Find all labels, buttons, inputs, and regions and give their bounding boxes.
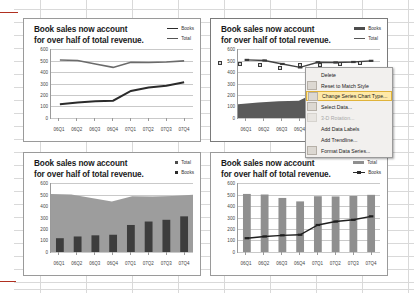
chart-title: Book sales now account for over half of … [221, 25, 337, 46]
menu-item-reset-to-match-style[interactable]: Reset to Match Style [306, 80, 392, 91]
legend-label: Books [368, 170, 381, 175]
chart-title-line1: Book sales now account [221, 159, 337, 170]
y-tick-label: 100 [40, 105, 48, 110]
legend-marker-square-icon [175, 161, 179, 165]
legend-label: Total [367, 160, 377, 165]
y-tick-label: 300 [40, 216, 48, 221]
y-tick-label: 400 [40, 204, 48, 209]
plot-area[interactable]: 600 500 400 300 200 100 0 [237, 183, 380, 253]
x-label: 06Q3 [89, 261, 100, 266]
x-label: 06Q2 [71, 127, 82, 132]
legend-label: Books [368, 26, 381, 31]
chart-title-line1: Book sales now account [34, 159, 150, 170]
selection-handle[interactable] [258, 63, 262, 67]
x-label: 06Q4 [107, 127, 118, 132]
legend-marker-line-icon [167, 38, 178, 39]
chart-title: Book sales now account for over half of … [34, 25, 150, 46]
chart-title: Book sales now account for over half of … [221, 159, 337, 180]
chart-legend[interactable]: Total Books [353, 160, 381, 175]
menu-item-delete[interactable]: Delete [306, 69, 392, 80]
series-area-total [51, 194, 193, 252]
menu-item-label: Format Data Series... [321, 148, 370, 154]
x-label: 06Q3 [276, 261, 287, 266]
x-label: 06Q3 [276, 127, 287, 132]
y-tick-label: 100 [40, 239, 48, 244]
legend-label: Books [181, 26, 194, 31]
legend-entry-books[interactable]: Books [175, 170, 194, 175]
selection-handle[interactable] [238, 62, 242, 66]
legend-marker-line-icon [167, 28, 178, 29]
chart-legend[interactable]: Books Total [167, 26, 194, 41]
menu-item-change-series-chart-type[interactable]: Change Series Chart Type... [306, 91, 392, 101]
x-label: 06Q1 [53, 127, 64, 132]
y-tick-label: 0 [232, 250, 235, 255]
menu-item-label: Select Data... [321, 104, 352, 110]
legend-marker-bar-icon [354, 27, 365, 30]
x-label: 07Q1 [312, 261, 323, 266]
menu-item-label: Change Series Chart Type... [322, 93, 387, 99]
legend-entry-total[interactable]: Total [167, 36, 194, 41]
marker-layer [238, 183, 380, 252]
menu-item-3d-rotation: 3-D Rotation... [306, 112, 392, 123]
legend-entry-total[interactable]: Total [175, 160, 194, 165]
legend-entry-total[interactable]: Total [353, 160, 381, 165]
y-tick-label: 300 [40, 82, 48, 87]
x-axis-labels: 06Q1 06Q2 06Q3 06Q4 07Q1 07Q2 07Q3 07Q4 [237, 261, 380, 266]
red-accent-line-bottom [0, 281, 16, 282]
chart-title-line2: for over half of total revenue. [221, 170, 337, 181]
legend-entry-total[interactable]: Total [354, 36, 381, 41]
reset-style-icon [307, 81, 317, 90]
chart-title-line1: Book sales now account [221, 25, 337, 36]
legend-entry-books[interactable]: Books [354, 26, 381, 31]
x-label: 07Q4 [366, 261, 377, 266]
selection-handle[interactable] [298, 63, 302, 67]
selection-handle[interactable] [278, 66, 282, 70]
legend-marker-square-icon [175, 171, 179, 175]
x-label: 06Q1 [240, 127, 251, 132]
chart-top-left[interactable]: Book sales now account for over half of … [23, 18, 201, 142]
menu-item-label: Delete [321, 72, 336, 78]
y-tick-label: 0 [45, 116, 48, 121]
chart-legend[interactable]: Books Total [354, 26, 381, 41]
y-tick-label: 100 [227, 239, 235, 244]
plot-area[interactable]: 600 500 400 300 200 100 0 [50, 183, 193, 253]
selection-handle[interactable] [218, 61, 222, 65]
context-menu[interactable]: Delete Reset to Match Style Change Serie… [305, 67, 393, 158]
chart-title-line2: for over half of total revenue. [34, 170, 150, 181]
y-tick-label: 0 [232, 116, 235, 121]
y-tick-label: 300 [227, 82, 235, 87]
chart-bottom-right[interactable]: Book sales now account for over half of … [210, 152, 388, 276]
x-label: 06Q3 [89, 127, 100, 132]
x-tickmarks [50, 118, 193, 121]
legend-label: Books [181, 170, 194, 175]
chart-bottom-left[interactable]: Book sales now account for over half of … [23, 152, 201, 276]
x-label: 06Q2 [258, 127, 269, 132]
menu-icon-none [307, 70, 317, 79]
y-tick-label: 500 [40, 193, 48, 198]
rotation-icon [307, 113, 317, 122]
menu-item-select-data[interactable]: Select Data... [306, 101, 392, 112]
series-layer [51, 49, 193, 118]
y-tick-label: 600 [40, 47, 48, 52]
menu-item-add-trendline[interactable]: Add Trendline... [306, 134, 392, 145]
plot-area[interactable]: 600 500 400 300 200 100 0 [50, 49, 193, 119]
legend-label: Total [368, 36, 378, 41]
y-tick-label: 400 [40, 70, 48, 75]
menu-item-label: 3-D Rotation... [321, 115, 354, 121]
legend-entry-books[interactable]: Books [353, 170, 381, 175]
legend-label: Total [181, 160, 191, 165]
legend-entry-books[interactable]: Books [167, 26, 194, 31]
x-label: 07Q4 [179, 127, 190, 132]
chart-title-line2: for over half of total revenue. [34, 36, 150, 47]
legend-label: Total [181, 36, 191, 41]
x-label: 07Q2 [330, 261, 341, 266]
selection-handle[interactable] [358, 61, 362, 65]
y-tick-label: 600 [227, 47, 235, 52]
selection-handle[interactable] [338, 62, 342, 66]
chart-legend[interactable]: Total Books [175, 160, 194, 175]
menu-item-format-data-series[interactable]: Format Data Series... [306, 145, 392, 156]
menu-item-add-data-labels[interactable]: Add Data Labels [306, 123, 392, 134]
y-tick-label: 600 [227, 181, 235, 186]
y-tick-label: 200 [227, 227, 235, 232]
y-tick-label: 200 [227, 93, 235, 98]
